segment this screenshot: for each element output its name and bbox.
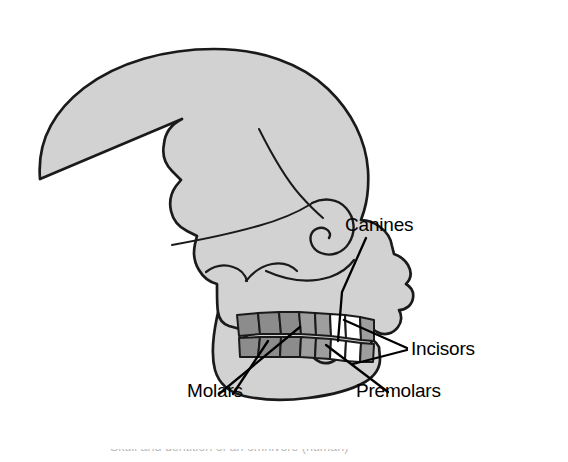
- upper-molar-1: [237, 313, 260, 336]
- lower-incisor-2: [345, 341, 361, 362]
- label-canines: Canines: [345, 214, 413, 236]
- label-premolars: Premolars: [356, 380, 441, 402]
- lower-premolar-2: [315, 338, 331, 359]
- figure-container: Omnivore (c): [0, 0, 568, 462]
- lower-premolar-1: [300, 337, 316, 358]
- label-incisors: Incisors: [411, 338, 475, 360]
- skull-diagram: [0, 0, 568, 462]
- caption-strip: Skull and dentition of an omnivore (huma…: [0, 449, 568, 462]
- upper-molar-2: [258, 312, 281, 334]
- teeth-group: [237, 312, 374, 362]
- upper-premolar-2: [315, 313, 331, 336]
- label-molars: Molars: [187, 380, 243, 402]
- upper-molar-3: [279, 312, 301, 334]
- lower-molar-1: [239, 337, 260, 357]
- upper-premolar-1: [299, 312, 316, 335]
- caption-text: Skull and dentition of an omnivore (huma…: [110, 449, 348, 454]
